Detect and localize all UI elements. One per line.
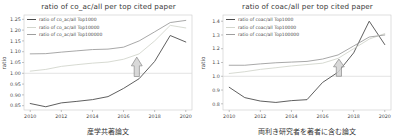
x-axis-label: 両利き研究者を著者に含む論文: [223, 126, 391, 136]
legend-item: ratio of co_ac/all Top1000: [27, 17, 102, 22]
y-tick-label: 1.25: [10, 17, 21, 22]
y-tick-label: 1.10: [10, 49, 21, 54]
legend-line-swatch: [226, 27, 235, 28]
y-tick-label: 1.0: [212, 74, 220, 79]
y-tick-label: 0.95: [10, 82, 21, 87]
legend-label: ratio of coac/all Top100000: [238, 32, 299, 37]
chart-panel-coac: ratio of coac/all per top cited paper ra…: [199, 0, 398, 137]
y-tick-label: 1.3: [212, 33, 220, 38]
y-axis-label: ratio: [1, 33, 7, 93]
series-line: [30, 36, 186, 107]
x-axis-label: 産学共著論文: [24, 126, 192, 136]
x-tick-label: 2018: [149, 114, 161, 119]
legend-line-swatch: [27, 19, 36, 20]
y-tick-label: 0.90: [10, 93, 21, 98]
y-tick-label: 0.8: [212, 102, 220, 107]
legend: ratio of coac/all Top1000 ratio of coac/…: [226, 17, 299, 37]
chart-panel-co-ac: ratio of co_ac/all per top cited paper r…: [0, 0, 199, 137]
y-tick-label: 1.1: [212, 60, 220, 65]
legend-line-swatch: [27, 34, 36, 35]
figure-row: ratio of co_ac/all per top cited paper r…: [0, 0, 398, 137]
legend-label: ratio of co_ac/all Top10000: [39, 25, 99, 30]
x-tick-label: 2020: [180, 114, 192, 119]
y-tick-label: 1.00: [10, 71, 21, 76]
legend-label: ratio of coac/all Top10000: [238, 25, 296, 30]
legend-label: ratio of co_ac/all Top100000: [39, 32, 102, 37]
legend-item: ratio of coac/all Top10000: [226, 25, 299, 30]
legend-line-swatch: [226, 34, 235, 35]
legend-item: ratio of co_ac/all Top100000: [27, 32, 102, 37]
x-tick-label: 2012: [254, 114, 266, 119]
legend-line-swatch: [27, 27, 36, 28]
x-tick-label: 2014: [86, 114, 98, 119]
legend-label: ratio of co_ac/all Top1000: [39, 17, 97, 22]
legend: ratio of co_ac/all Top1000 ratio of co_a…: [27, 17, 102, 37]
y-tick-label: 1.4: [212, 19, 220, 24]
legend-item: ratio of co_ac/all Top10000: [27, 25, 102, 30]
y-axis-label: ratio: [200, 33, 206, 93]
y-tick-label: 1.2: [212, 46, 220, 51]
y-tick-label: 1.15: [10, 39, 21, 44]
series-line: [229, 35, 385, 65]
legend-item: ratio of coac/all Top100000: [226, 32, 299, 37]
legend-line-swatch: [226, 19, 235, 20]
x-tick-label: 2016: [316, 114, 328, 119]
x-tick-label: 2016: [117, 114, 129, 119]
y-tick-label: 0.85: [10, 103, 21, 108]
series-line: [229, 34, 385, 74]
y-tick-label: 1.20: [10, 28, 21, 33]
x-tick-label: 2014: [285, 114, 297, 119]
legend-label: ratio of coac/all Top1000: [238, 17, 293, 22]
y-tick-label: 1.05: [10, 60, 21, 65]
x-tick-label: 2010: [24, 114, 36, 119]
x-tick-label: 2012: [55, 114, 67, 119]
x-tick-label: 2020: [379, 114, 391, 119]
x-tick-label: 2018: [348, 114, 360, 119]
legend-item: ratio of coac/all Top1000: [226, 17, 299, 22]
y-tick-label: 0.9: [212, 88, 220, 93]
x-tick-label: 2010: [223, 114, 235, 119]
